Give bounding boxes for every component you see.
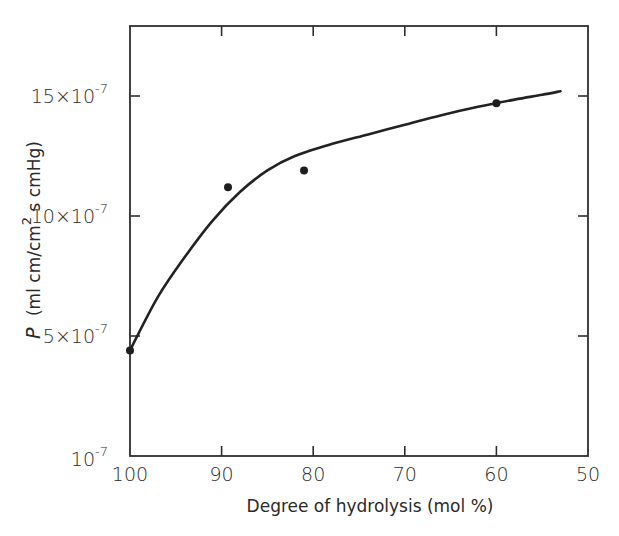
data-point bbox=[300, 166, 308, 174]
x-tick-label: 70 bbox=[393, 463, 417, 485]
x-tick-label: 100 bbox=[112, 463, 148, 485]
y-axis-ticks bbox=[130, 96, 588, 336]
y-axis-symbol: P bbox=[22, 327, 44, 339]
y-axis-title: P (ml cm/cm2 s cmHg) bbox=[19, 141, 44, 339]
data-point bbox=[492, 99, 500, 107]
x-axis-title: Degree of hydrolysis (mol %) bbox=[247, 496, 494, 516]
x-axis-ticks bbox=[222, 26, 497, 456]
x-tick-label: 90 bbox=[210, 463, 234, 485]
x-axis-tick-labels: 1009080706050 bbox=[112, 463, 600, 485]
y-tick-label: 5×10-7 bbox=[43, 321, 108, 347]
x-tick-label: 60 bbox=[484, 463, 508, 485]
data-point bbox=[126, 346, 134, 354]
data-points bbox=[126, 99, 500, 354]
permeability-chart: 1009080706050 10-75×10-710×10-715×10-7 D… bbox=[0, 0, 619, 536]
y-tick-label: 15×10-7 bbox=[31, 81, 108, 107]
plot-frame bbox=[130, 26, 588, 456]
data-point bbox=[224, 183, 232, 191]
x-tick-label: 50 bbox=[576, 463, 600, 485]
x-tick-label: 80 bbox=[301, 463, 325, 485]
fitted-curve bbox=[130, 91, 561, 350]
y-tick-label: 10-7 bbox=[71, 444, 108, 470]
